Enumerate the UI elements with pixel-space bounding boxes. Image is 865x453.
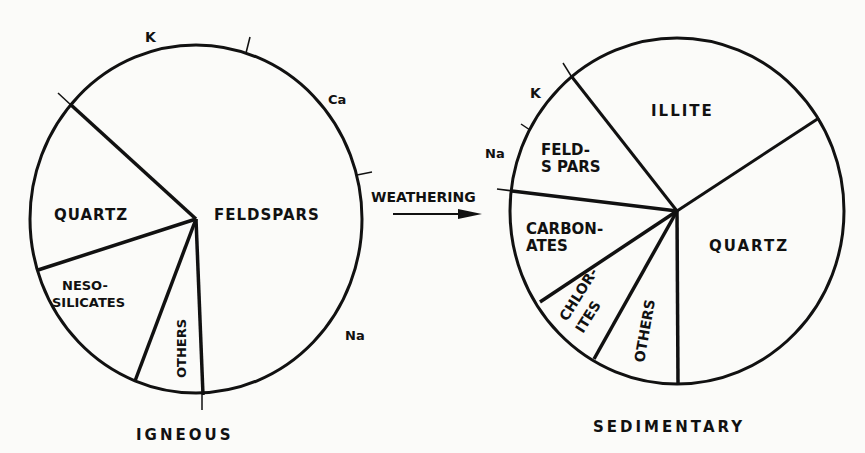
igneous-title: IGNEOUS [136, 426, 233, 444]
quartz-neso-divider [38, 219, 196, 270]
others-feldspar-divider [196, 219, 203, 395]
weathering-arrow: WEATHERING [371, 189, 482, 219]
label-na: Na [485, 146, 505, 161]
weathering-diagram: K Ca Na QUARTZ FELDSPARS NESO- SILICATES… [0, 0, 865, 453]
label-feld-2: S PARS [541, 158, 601, 176]
sedimentary-pie: K Na ILLITE QUARTZ FELD- S PARS CARBON- … [485, 38, 844, 436]
label-carb-1: CARBON- [526, 220, 603, 238]
label-feld-1: FELD- [541, 141, 590, 159]
carbonates-feldspars-divider [512, 191, 677, 211]
label-na: Na [345, 328, 365, 343]
quartz-feldspar-divider [70, 104, 196, 219]
label-quartz: QUARTZ [709, 237, 789, 255]
label-others: OTHERS [174, 319, 189, 378]
ca-na-tick [357, 172, 372, 175]
k-start-tick [563, 63, 573, 79]
illite-quartz-divider [677, 118, 819, 211]
label-ca: Ca [328, 92, 346, 107]
k-na-tick [521, 124, 530, 130]
igneous-pie: K Ca Na QUARTZ FELDSPARS NESO- SILICATES… [30, 29, 372, 444]
weathering-label: WEATHERING [371, 189, 476, 205]
label-neso-2: SILICATES [52, 295, 125, 310]
label-k: K [145, 29, 157, 45]
label-carb-2: ATES [526, 237, 568, 255]
label-feldspars: FELDSPARS [214, 206, 320, 224]
label-k: K [530, 85, 542, 101]
k-ca-tick [246, 37, 250, 53]
arrow-head-icon [458, 209, 482, 219]
label-quartz: QUARTZ [54, 206, 128, 224]
label-neso-1: NESO- [62, 278, 108, 293]
quartz-others-divider [677, 211, 678, 384]
k-start-tick [58, 93, 72, 106]
sedimentary-title: SEDIMENTARY [593, 418, 745, 436]
label-others: OTHERS [631, 298, 658, 363]
label-illite: ILLITE [651, 102, 714, 120]
